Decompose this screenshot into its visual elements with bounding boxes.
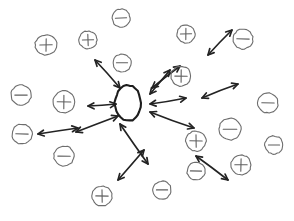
force-arrow: [150, 96, 186, 106]
positive-charge-particle: [53, 91, 75, 113]
positive-charge-particle: [171, 66, 191, 86]
negative-charge-particle: [257, 93, 278, 113]
positive-charge-particle: [185, 131, 206, 151]
force-arrow: [95, 60, 120, 88]
negative-charge-particle: [11, 85, 31, 105]
diagram-canvas: [0, 0, 294, 221]
negative-charge-particle: [219, 118, 241, 140]
positive-charge-particle: [92, 186, 112, 206]
particles-layer: [11, 9, 283, 206]
force-arrow: [150, 112, 194, 130]
force-arrow: [202, 83, 238, 98]
force-arrow: [120, 124, 148, 164]
force-arrow: [208, 30, 232, 55]
negative-charge-particle: [187, 162, 205, 179]
positive-charge-particle: [177, 25, 195, 43]
negative-charge-particle: [113, 54, 131, 72]
force-arrow: [196, 156, 228, 180]
charge-interaction-diagram: [0, 0, 294, 221]
force-arrows-layer: [38, 30, 238, 180]
central-neutral-body: [114, 85, 141, 120]
positive-charge-particle: [35, 35, 57, 56]
negative-charge-particle: [54, 146, 74, 166]
force-arrow: [118, 150, 144, 180]
charge-sign-horizontal-stroke: [115, 18, 126, 19]
negative-charge-particle: [233, 29, 253, 49]
positive-charge-particle: [79, 31, 98, 49]
negative-charge-particle: [12, 124, 32, 143]
central-body-layer: [114, 85, 141, 120]
negative-charge-particle: [112, 9, 130, 28]
negative-charge-particle: [265, 136, 283, 155]
negative-charge-particle: [153, 181, 171, 199]
force-arrow: [38, 126, 78, 136]
force-arrow: [76, 115, 118, 132]
force-arrow: [88, 102, 116, 109]
force-arrow: [150, 70, 170, 94]
positive-charge-particle: [231, 155, 251, 175]
